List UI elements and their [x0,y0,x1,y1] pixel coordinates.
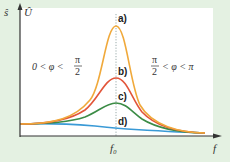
label-a: a) [118,13,127,24]
curve-b [20,78,205,133]
curve-c [20,103,205,133]
x-tick-f0: f₀ [110,142,117,154]
annotation-right-num: π [152,54,157,65]
label-d: d) [118,116,127,127]
annotation-left-num: π [75,54,80,65]
annotation-right-text: < φ < π [162,61,195,72]
y-label-s: ŝ [4,6,9,18]
x-label-f: f [213,142,218,154]
label-c: c) [118,91,127,102]
diagram-frame: ŝ Û f₀ f a) b) c) d) 0 < φ < π 2 π 2 < φ… [0,0,230,162]
y-label-u: Û [24,6,33,18]
x-axis-arrow-icon [213,134,222,139]
resonance-chart: ŝ Û f₀ f a) b) c) d) 0 < φ < π 2 π 2 < φ… [0,0,230,162]
annotation-right-den: 2 [152,66,157,77]
y-axis-arrow-icon [18,3,23,10]
curve-d [20,124,205,133]
label-b: b) [118,66,127,77]
annotation-left-text: 0 < φ < [32,61,64,72]
annotation-left-den: 2 [75,66,80,77]
